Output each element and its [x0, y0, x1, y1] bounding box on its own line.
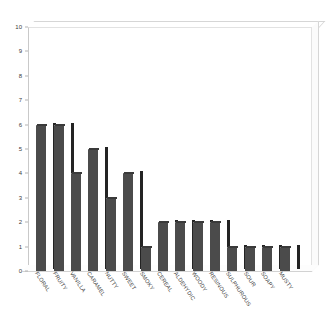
x-axis-tick-label: NUTTY [103, 271, 118, 290]
bar-top-face [37, 124, 47, 126]
bar-front-face [227, 247, 237, 271]
bar-top-face [211, 221, 221, 223]
bar-front-face [71, 173, 81, 271]
bar-top-face [55, 124, 65, 126]
y-axis-tick-label: 7 [19, 97, 22, 103]
bar-top-face [159, 221, 169, 223]
bar-side-face [297, 245, 300, 269]
bar-front-face [123, 173, 133, 271]
x-axis-labels: FLORALFRUITYVANILLACARAMELNUTTYSWEETSMOK… [28, 271, 318, 329]
bar-front-face [210, 222, 220, 271]
bar-front-face [54, 125, 64, 271]
y-axis: 012345678910 [0, 0, 28, 329]
bar-top-face [107, 197, 117, 199]
x-axis-tick-label: VANILLA [68, 271, 86, 294]
bar-top-face [124, 172, 134, 174]
y-axis-tick-label: 5 [19, 146, 22, 152]
y-axis-tick-label: 0 [19, 268, 22, 274]
x-axis-tick-label: WOODY [190, 271, 207, 293]
bar-front-face [88, 149, 98, 271]
x-axis-tick-label: CEREAL [155, 271, 173, 293]
y-axis-tick-label: 8 [19, 73, 22, 79]
x-axis-tick-label: SMOKY [138, 271, 154, 292]
bar-top-face [89, 148, 99, 150]
bar-front-face [175, 222, 185, 271]
bar-top-face [263, 246, 273, 248]
bar-top-face [194, 221, 204, 223]
bar-front-face [141, 247, 151, 271]
bar-top-face [72, 172, 82, 174]
x-axis-tick-label: SWEET [121, 271, 137, 291]
plot-frame-right-depth [312, 21, 319, 271]
bar-front-face [262, 247, 272, 271]
y-axis-tick-label: 2 [19, 219, 22, 225]
bar-top-face [246, 246, 256, 248]
bar-chart: 012345678910 FLORALFRUITYVANILLACARAMELN… [0, 0, 330, 329]
bar-front-face [158, 222, 168, 271]
bar-top-face [142, 246, 152, 248]
bar-front-face [36, 125, 46, 271]
x-axis-tick-label: SOAPY [260, 271, 276, 291]
bar-front-face [280, 247, 290, 271]
bar-top-face [228, 246, 238, 248]
y-axis-tick-label: 6 [19, 122, 22, 128]
y-axis-tick-label: 3 [19, 195, 22, 201]
x-axis-tick-label: FRUITY [51, 271, 67, 292]
x-axis-tick-label: MUSTY [277, 271, 293, 291]
bar-front-face [193, 222, 203, 271]
bar-front-face [106, 198, 116, 271]
x-axis-tick-label: FLORAL [34, 271, 51, 293]
bar-front-face [245, 247, 255, 271]
bar-top-face [176, 221, 186, 223]
y-axis-tick-label: 1 [19, 244, 22, 250]
bars-layer [28, 27, 312, 271]
y-axis-tick-label: 9 [19, 48, 22, 54]
x-axis-tick-label: SOUR [242, 271, 256, 288]
y-axis-tick-label: 10 [15, 24, 22, 30]
bar-top-face [281, 246, 291, 248]
y-axis-tick-label: 4 [19, 170, 22, 176]
